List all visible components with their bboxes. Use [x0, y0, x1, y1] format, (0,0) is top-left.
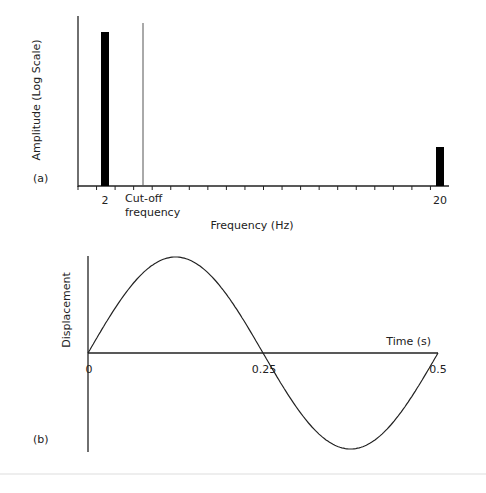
panel-a-spectrum: Amplitude (Log Scale) (a) 2 20 Cut-off f… — [30, 16, 449, 232]
panel-a-label: (a) — [33, 172, 48, 185]
panel-b-label: (b) — [33, 433, 49, 446]
y-axis-label: Amplitude (Log Scale) — [30, 39, 43, 160]
bar-20hz — [436, 147, 444, 186]
cutoff-label-line1: Cut-off — [125, 192, 163, 205]
x-tick-0: 0 — [86, 363, 93, 376]
x-tick-2: 2 — [102, 194, 109, 207]
cutoff-label-line2: frequency — [125, 206, 181, 219]
x-tick-0-25: 0.25 — [252, 363, 277, 376]
x-tick-20: 20 — [433, 194, 447, 207]
x-axis-label: Frequency (Hz) — [211, 219, 294, 232]
y-axis-label: Displacement — [60, 272, 73, 348]
bar-2hz — [101, 32, 109, 186]
figure: Amplitude (Log Scale) (a) 2 20 Cut-off f… — [0, 0, 486, 493]
panel-b-waveform: Displacement (b) 0 0.25 0.5 Time (s) — [33, 256, 447, 452]
x-axis-label: Time (s) — [385, 335, 431, 348]
x-tick-0-5: 0.5 — [429, 363, 447, 376]
